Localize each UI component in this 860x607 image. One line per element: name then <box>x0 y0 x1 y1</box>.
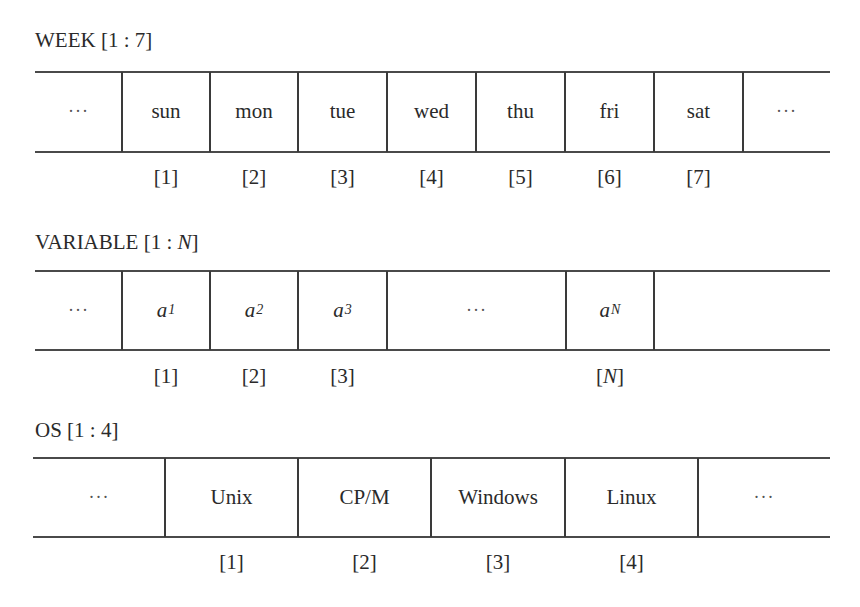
variable-leading-ellipsis: ··· <box>35 271 122 349</box>
week-cell-4: wed <box>387 72 476 150</box>
week-index-2: [2] <box>210 167 298 188</box>
os-title: OS [1 : 4] <box>35 420 118 441</box>
week-cell-5: thu <box>476 72 565 150</box>
variable-base: a <box>245 300 256 321</box>
variable-cell-2: a2 <box>210 271 298 349</box>
variable-cell-n: aN <box>566 271 654 349</box>
variable-index-3: [3] <box>298 366 387 387</box>
week-cell-2: mon <box>210 72 298 150</box>
week-title: WEEK [1 : 7] <box>35 30 152 51</box>
variable-title: VARIABLE [1 : N] <box>35 232 199 253</box>
week-cell-6: fri <box>565 72 654 150</box>
week-index-7: [7] <box>654 167 743 188</box>
os-index-1: [1] <box>165 552 298 573</box>
week-cell-1: sun <box>122 72 210 150</box>
os-trailing-ellipsis: ··· <box>698 458 830 536</box>
variable-base: a <box>600 300 611 321</box>
variable-cell-1: a1 <box>122 271 210 349</box>
variable-index-n: [N] <box>566 366 654 387</box>
week-cell-7: sat <box>654 72 743 150</box>
os-leading-ellipsis: ··· <box>33 458 165 536</box>
os-index-4: [4] <box>565 552 698 573</box>
index-bracket-close: ] <box>617 364 624 388</box>
week-bottom-border <box>35 151 830 153</box>
os-cell-3: Windows <box>431 458 565 536</box>
variable-index-1: [1] <box>122 366 210 387</box>
week-index-3: [3] <box>298 167 387 188</box>
os-index-3: [3] <box>431 552 565 573</box>
os-cell-4: Linux <box>565 458 698 536</box>
variable-base: a <box>333 300 344 321</box>
week-leading-ellipsis: ··· <box>35 72 122 150</box>
variable-middle-ellipsis: ··· <box>387 271 566 349</box>
week-trailing-ellipsis: ··· <box>743 72 830 150</box>
variable-bottom-border <box>35 349 830 351</box>
variable-cell-3: a3 <box>298 271 387 349</box>
variable-index-2: [2] <box>210 366 298 387</box>
variable-title-suffix: ] <box>192 230 199 254</box>
os-index-2: [2] <box>298 552 431 573</box>
week-index-4: [4] <box>387 167 476 188</box>
week-index-6: [6] <box>565 167 654 188</box>
variable-subscript: N <box>611 303 620 317</box>
index-var: N <box>603 364 617 388</box>
variable-subscript: 1 <box>168 303 175 317</box>
week-index-1: [1] <box>122 167 210 188</box>
variable-base: a <box>157 300 168 321</box>
variable-title-var: N <box>178 230 192 254</box>
index-bracket-open: [ <box>596 364 603 388</box>
week-index-5: [5] <box>476 167 565 188</box>
variable-title-prefix: VARIABLE [1 : <box>35 230 178 254</box>
os-cell-2: CP/M <box>298 458 431 536</box>
variable-subscript: 2 <box>256 303 263 317</box>
variable-subscript: 3 <box>345 303 352 317</box>
os-bottom-border <box>33 536 830 538</box>
week-cell-3: tue <box>298 72 387 150</box>
os-cell-1: Unix <box>165 458 298 536</box>
